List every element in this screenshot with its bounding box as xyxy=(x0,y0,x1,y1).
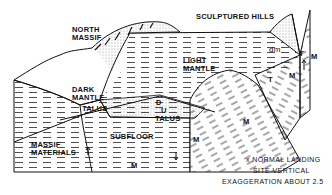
label-subfloor: SUBFLOOR xyxy=(110,133,154,141)
label-north-massif: NORTH MASSIF xyxy=(72,26,102,42)
label-line: MATERIALS xyxy=(31,149,76,157)
label-m-2: M xyxy=(193,136,199,144)
caption-line-1: x NORMAL LANDING xyxy=(246,154,321,165)
label-dm: dm xyxy=(269,46,281,54)
label-sculptured-hills: SCULPTURED HILLS xyxy=(196,13,274,21)
caption-line-3: EXAGGERATION ABOUT 2.5 xyxy=(222,176,324,187)
label-massif-materials: MASSIF MATERIALS xyxy=(31,141,76,157)
label-line: MASSIF xyxy=(72,34,102,42)
caption: x NORMAL LANDING xyxy=(246,154,321,165)
label-line: MANTLE xyxy=(183,65,215,73)
label-t-top: T xyxy=(299,50,304,58)
label-dark-mantle: DARK MANTLE xyxy=(72,86,104,102)
label-talus-left: TALUS xyxy=(82,105,107,113)
label-light-mantle: LIGHT MANTLE xyxy=(183,57,215,73)
label-m-4: M xyxy=(289,72,295,80)
label-m-1: M xyxy=(131,162,137,170)
label-m-5: M xyxy=(311,53,317,61)
label-m-3: M xyxy=(243,118,249,126)
label-t-mid: T xyxy=(268,76,273,84)
label-talus-center: TALUS xyxy=(155,115,180,123)
label-line: MANTLE xyxy=(72,94,104,102)
caption-line-2: SITE VERTICAL xyxy=(253,165,310,176)
